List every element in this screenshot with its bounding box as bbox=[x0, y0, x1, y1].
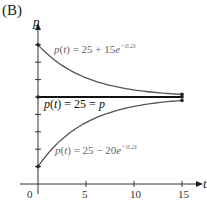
data-point-marker bbox=[180, 95, 184, 99]
y-axis-label: p bbox=[33, 14, 40, 30]
x-tick-label: 15 bbox=[178, 188, 189, 200]
x-axis-label: t bbox=[203, 176, 207, 192]
data-point-marker bbox=[36, 43, 40, 47]
equilibrium-label: p(t) = 25 = p bbox=[44, 97, 105, 112]
x-tick-label: 5 bbox=[82, 188, 88, 200]
x-axis-arrow-icon bbox=[196, 181, 203, 187]
x-tick-label: 0 bbox=[27, 188, 33, 200]
data-point-marker bbox=[36, 95, 40, 99]
lower-curve-label: p(t) = 25 − 20e−0.2t bbox=[55, 143, 137, 156]
data-point-marker bbox=[180, 99, 184, 103]
x-tick-label: 10 bbox=[130, 188, 141, 200]
upper-curve-label: p(t) = 25 + 15e−0.2t bbox=[54, 42, 136, 55]
data-point-marker bbox=[36, 165, 40, 169]
